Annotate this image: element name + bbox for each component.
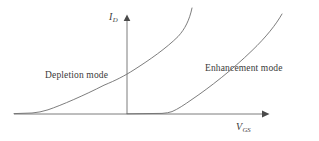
y-axis-arrow-icon — [124, 15, 131, 22]
depletion-mode-curve — [14, 8, 192, 114]
depletion-mode-label: Depletion mode — [45, 71, 108, 81]
mosfet-transfer-characteristic-figure: ID VGS Depletion mode Enhancement mode — [0, 0, 319, 141]
enhancement-mode-label: Enhancement mode — [205, 64, 283, 74]
x-axis-arrow-icon — [262, 111, 270, 118]
y-axis-subscript: D — [113, 16, 118, 23]
x-axis-subscript: GS — [242, 126, 250, 133]
y-axis-label: ID — [109, 12, 117, 22]
y-axis-symbol: I — [109, 11, 112, 22]
x-axis-label: VGS — [236, 122, 250, 132]
